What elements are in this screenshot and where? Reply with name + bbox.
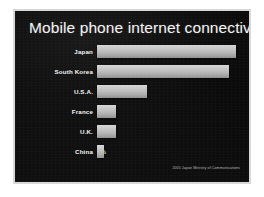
bar-usa (97, 85, 147, 98)
bar-japan (97, 45, 236, 58)
bar-category-label: South Korea (15, 68, 93, 75)
slide-frame: Mobile phone internet connectivity rate … (13, 9, 251, 184)
source-attribution: 2005 Japan Ministry of Communications (172, 166, 240, 170)
bar-france (97, 105, 116, 118)
bar-track (97, 145, 245, 158)
bar-chart-plot-area: Japan 94% South Korea 89% U.S.A. 34% (15, 43, 249, 182)
chart-row: Japan 94% (15, 45, 249, 58)
bar-category-label: U.K. (15, 128, 93, 135)
bar-uk (97, 125, 116, 138)
chart-row: U.K. 13% (15, 125, 249, 138)
bar-track (97, 65, 245, 78)
page-title: Mobile phone internet connectivity rate (29, 19, 249, 37)
bar-category-label: U.S.A. (15, 88, 93, 95)
bar-china (97, 145, 104, 158)
presentation-slide: Mobile phone internet connectivity rate … (15, 11, 249, 182)
bar-track (97, 105, 245, 118)
bar-track (97, 125, 245, 138)
chart-row: U.S.A. 34% (15, 85, 249, 98)
bar-category-label: France (15, 108, 93, 115)
bar-south-korea (97, 65, 229, 78)
chart-row: South Korea 89% (15, 65, 249, 78)
chart-row: France 13% (15, 105, 249, 118)
bar-category-label: China (15, 148, 93, 155)
bar-category-label: Japan (15, 48, 93, 55)
bar-track (97, 45, 245, 58)
bar-track (97, 85, 245, 98)
chart-row: China 5% (15, 145, 249, 158)
